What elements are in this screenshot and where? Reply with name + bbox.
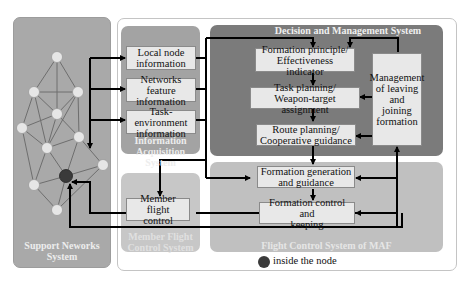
member-title-line2: Control System <box>121 242 200 253</box>
info-title-line2: Acquisition System <box>121 146 200 168</box>
box-line: and guidance <box>278 177 334 188</box>
network-node <box>29 180 40 191</box>
box-line: Local node <box>138 47 185 58</box>
formation-principle-box: Formation principle/ Effectiveness indic… <box>255 48 355 72</box>
task-environment-info-box: Task-environment information <box>126 110 196 134</box>
information-acquisition-title: Information Acquisition System <box>121 135 200 168</box>
box-line: and joining <box>375 94 419 116</box>
network-node <box>17 123 28 134</box>
inside-node-legend-label: inside the node <box>273 255 337 266</box>
box-line: Task planning/ <box>274 82 336 93</box>
box-line: Networks feature <box>129 74 193 96</box>
member-flight-control-box: Member flight control <box>126 198 190 221</box>
leaving-joining-management-box: Management of leaving and joining format… <box>372 53 422 146</box>
box-line: formation <box>376 116 417 127</box>
box-line: of leaving <box>376 83 418 94</box>
network-node <box>52 52 63 63</box>
box-line: Task-environment <box>129 106 193 128</box>
box-line: information <box>136 58 186 69</box>
network-node <box>52 109 63 120</box>
inside-node-legend-marker <box>258 256 270 268</box>
box-line: Member flight <box>129 193 187 215</box>
box-line: Management <box>370 72 425 83</box>
info-title-line1: Information <box>121 135 200 146</box>
support-networks-title: Support Neworks System <box>13 240 111 262</box>
network-node <box>42 143 53 154</box>
decision-management-title: Decision and Management System <box>258 25 438 36</box>
networks-feature-info-box: Networks feature information <box>126 78 196 102</box>
network-node <box>74 132 85 143</box>
member-title-line1: Member Flight <box>121 231 200 242</box>
local-node-info-box: Local node information <box>126 46 196 70</box>
formation-control-keeping-box: Formation control and keeping <box>259 202 355 224</box>
member-flight-control-title: Member Flight Control System <box>121 231 200 253</box>
network-node <box>52 205 63 216</box>
inside-node-marker <box>60 170 73 183</box>
box-line: Formation control and <box>262 197 352 219</box>
network-node <box>73 87 84 98</box>
box-line: control <box>143 215 173 226</box>
box-line: Formation principle/ <box>262 44 349 55</box>
formation-generation-box: Formation generation and guidance <box>257 166 355 188</box>
route-planning-box: Route planning/ Cooperative guidance <box>256 124 356 146</box>
box-line: Formation generation <box>261 166 352 177</box>
box-line: Weapon-target assignment <box>253 93 357 115</box>
support-networks-title-line1: Support Neworks <box>13 240 111 251</box>
box-line: Route planning/ <box>272 124 339 135</box>
task-planning-box: Task planning/ Weapon-target assignment <box>250 87 360 109</box>
box-line: Effectiveness indicator <box>258 55 352 77</box>
network-node <box>98 160 109 171</box>
flight-control-maf-title: Flight Control System of MAF <box>210 240 443 251</box>
box-line: Cooperative guidance <box>260 135 352 146</box>
box-line: keeping <box>290 219 323 230</box>
support-networks-title-line2: System <box>13 251 111 262</box>
network-node <box>29 87 40 98</box>
